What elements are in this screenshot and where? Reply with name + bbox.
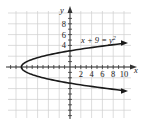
equation-label: x + 9 = y2 [80,35,116,46]
parabola-chart: 246810864 x y x + 9 = y2 [0,0,143,119]
x-tick-label: 8 [111,69,115,79]
y-axis-label: y [59,5,64,15]
x-axis-label: x [133,65,138,75]
y-tick-label: 6 [62,30,66,40]
y-axis-arrow-icon [68,6,73,13]
curve-arrow-top [121,40,128,46]
x-tick-label: 6 [100,69,104,79]
curve-arrow-bottom [121,88,128,94]
y-tick-label: 8 [62,19,66,29]
x-tick-label: 10 [120,69,129,79]
x-tick-label: 4 [89,69,94,79]
tick-labels: 246810864 [62,19,129,79]
equation-exponent: 2 [113,35,116,41]
x-tick-label: 2 [79,69,83,79]
equation-lhs: x + 9 = y [80,35,113,45]
